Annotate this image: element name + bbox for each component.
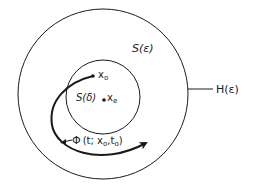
- start-point-marker: [91, 74, 95, 78]
- equilibrium-point-label: xe: [107, 92, 117, 105]
- outer-circle-s-epsilon: [18, 9, 188, 179]
- stability-diagram: xo S(δ) xe S(ε) H(ε) Φ(t; xo,to): [0, 0, 258, 186]
- s-epsilon-label: S(ε): [132, 42, 154, 55]
- equilibrium-point-marker: [102, 98, 106, 102]
- h-epsilon-label: H(ε): [216, 83, 239, 96]
- start-point-label: xo: [98, 69, 108, 82]
- trajectory-label: Φ(t; xo,to): [72, 134, 123, 148]
- s-delta-label: S(δ): [76, 92, 96, 103]
